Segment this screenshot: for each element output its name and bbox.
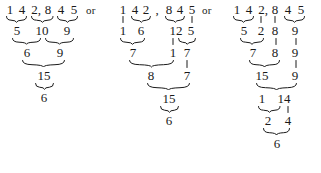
underbrace [12,38,42,45]
underbrace [249,60,281,68]
sum-token: 6 [135,24,147,38]
variant-3-row-sums-1: 5 2 8 9 [228,24,321,38]
underbrace [120,38,146,45]
underbrace [57,16,79,23]
sum-token: 1 [256,92,268,106]
digit-token: 5 [68,3,80,17]
sum-token: 9 [60,24,74,38]
underbrace [22,60,66,68]
underbrace [178,38,197,45]
group-bar [122,16,124,23]
digit-token: 1 [231,3,243,17]
sum-token: 8 [145,69,157,83]
sum-token: 5 [185,24,197,38]
underbrace [45,38,75,45]
variant-2-row-sums-2: 7 1 7 [114,46,209,60]
underbrace [233,16,255,23]
digit-token: 2, [256,3,270,17]
sum-token: 8 [269,46,281,60]
underbrace [6,16,28,23]
group-bar [186,60,188,68]
underbrace [165,16,186,23]
sum-token: 2 [262,114,274,128]
digit-token: 4 [16,3,28,17]
group-bar [274,16,276,23]
variant-2-row-digits: 1 4 2 , 8 4 5 [114,3,209,17]
sum-token: 2 [255,24,267,38]
digit-token: 4 [174,3,186,17]
variant-2-row-sums-3: 8 7 [114,69,209,83]
group-bar [191,16,193,23]
variant-3-row-sums-3: 15 9 [228,69,321,83]
sum-token: 5 [238,24,250,38]
group-bar [260,16,262,23]
result-token: 6 [163,114,175,128]
sum-token: 7 [181,46,193,60]
sum-token: 9 [289,24,301,38]
underbrace [147,83,191,91]
sum-token: 15 [253,69,271,83]
variant-3-row-sums-5: 2 4 [228,114,321,128]
digit-token: 2 [140,3,152,17]
digit-token: 8 [42,3,54,17]
variant-1-row-sums-3: 15 [0,69,90,83]
underbrace [263,128,291,136]
variant-2-row-sums-1: 1 6 12 5 [114,24,209,38]
digit-token: 1 [4,3,16,17]
sum-token: 12 [167,24,185,38]
sum-token: 5 [11,24,23,38]
variant-2-row-result: 6 [114,114,209,128]
digit-token: 5 [295,3,307,17]
sum-token: 7 [127,46,139,60]
sum-token: 7 [247,46,259,60]
comma-token: , [152,3,162,17]
variant-3-row-sums-4: 1 14 [228,92,321,106]
sum-token: 9 [289,69,301,83]
sum-token: 6 [21,46,33,60]
variant-3-row-digits: 1 4 2, 8 4 5 [228,3,321,17]
digit-token: 5 [186,3,198,17]
variant-3-row-sums-2: 7 8 9 [228,46,321,60]
underbrace [160,106,180,113]
group-bar [287,106,289,113]
variant-2-row-sums-4: 15 [114,92,209,106]
underbrace [31,16,55,23]
underbrace [256,83,298,91]
sum-token: 1 [117,24,129,38]
underbrace [129,60,175,68]
sum-token: 15 [35,69,53,83]
digit-token: 4 [282,3,294,17]
group-bar [172,38,174,45]
digit-token: 4 [55,3,67,17]
sum-token: 1 [168,46,178,60]
result-token: 6 [38,91,50,105]
underbrace [240,38,265,45]
digit-token: 4 [243,3,255,17]
sum-token: 10 [33,24,51,38]
sum-token: 8 [269,24,281,38]
digit-token: 1 [117,3,129,17]
sum-token: 9 [289,46,301,60]
variant-1-row-result: 6 [0,91,90,105]
underbrace [131,16,152,23]
figure-canvas: or or 1 4 2, 8 4 5 5 10 9 [0,0,321,173]
group-bar [275,38,277,45]
sum-token: 4 [282,114,294,128]
variant-1-row-sums-1: 5 10 9 [0,24,90,38]
sum-token: 15 [160,92,178,106]
variant-1-row-sums-2: 6 9 [0,46,90,60]
sum-token: 9 [54,46,66,60]
group-bar [295,60,297,68]
variant-3-row-result: 6 [228,137,321,151]
digit-token: 8 [269,3,281,17]
underbrace [284,16,306,23]
digit-token: 2, [29,3,43,17]
underbrace [258,106,282,113]
sum-token: 14 [275,92,293,106]
variant-1-row-digits: 1 4 2, 8 4 5 [0,3,90,17]
result-token: 6 [271,137,283,151]
underbrace [35,83,55,90]
group-bar [295,38,297,45]
sum-token: 7 [181,69,193,83]
